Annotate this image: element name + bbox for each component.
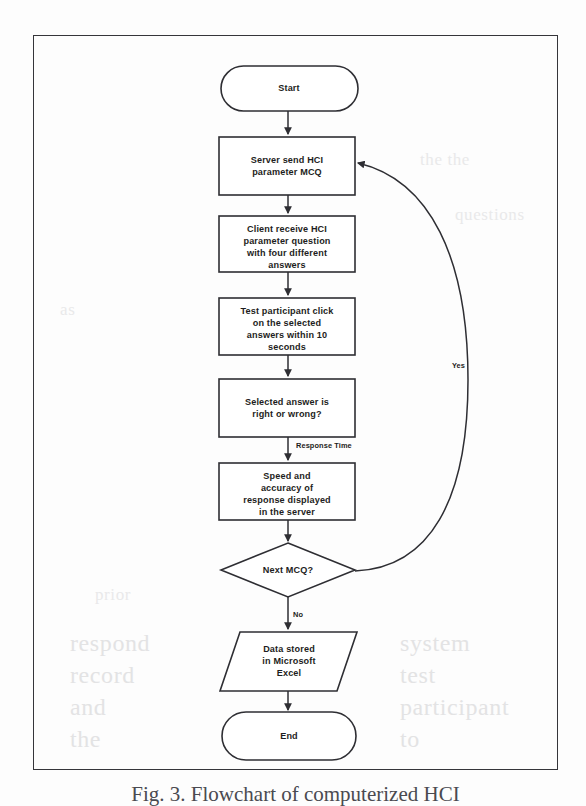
node-client-receive-line4: answers <box>268 260 305 270</box>
edge-label-response-time: Response Time <box>296 441 352 450</box>
node-client-receive-line1: Client receive HCI <box>247 224 327 234</box>
node-test-participant-line4: seconds <box>268 342 306 352</box>
node-selected-answer[interactable] <box>219 379 355 437</box>
node-speed-accuracy-line4: in the server <box>259 507 315 517</box>
node-test-participant-line1: Test participant click <box>240 306 334 316</box>
node-test-participant-line3: answers within 10 <box>247 330 327 340</box>
node-test-participant-line2: on the selected <box>253 318 321 328</box>
node-server-send[interactable] <box>219 137 355 195</box>
node-server-send-line1: Server send HCI <box>251 155 324 165</box>
node-end-label: End <box>280 731 298 741</box>
node-speed-accuracy-line1: Speed and <box>263 471 310 481</box>
node-selected-answer-line2: right or wrong? <box>252 409 322 419</box>
edge-label-yes: Yes <box>452 361 465 370</box>
figure-caption: Fig. 3. Flowchart of computerized HCI <box>33 782 558 806</box>
edge-label-no: No <box>293 610 303 619</box>
node-decision-label: Next MCQ? <box>263 565 314 575</box>
node-data-stored-line1: Data stored <box>263 644 315 654</box>
node-data-stored-line2: in Microsoft <box>262 656 315 666</box>
node-server-send-line2: parameter MCQ <box>252 167 322 177</box>
node-data-stored-line3: Excel <box>277 668 302 678</box>
node-speed-accuracy-line3: response displayed <box>243 495 331 505</box>
node-speed-accuracy-line2: accuracy of <box>261 483 314 493</box>
flowchart-canvas: Start Server send HCI parameter MCQ Clie… <box>0 0 586 806</box>
node-client-receive-line3: with four different <box>246 248 327 258</box>
node-client-receive-line2: parameter question <box>243 236 330 246</box>
figure-page: the the questions as prior system test p… <box>0 0 586 806</box>
node-selected-answer-line1: Selected answer is <box>245 397 329 407</box>
node-start-label: Start <box>278 83 299 93</box>
